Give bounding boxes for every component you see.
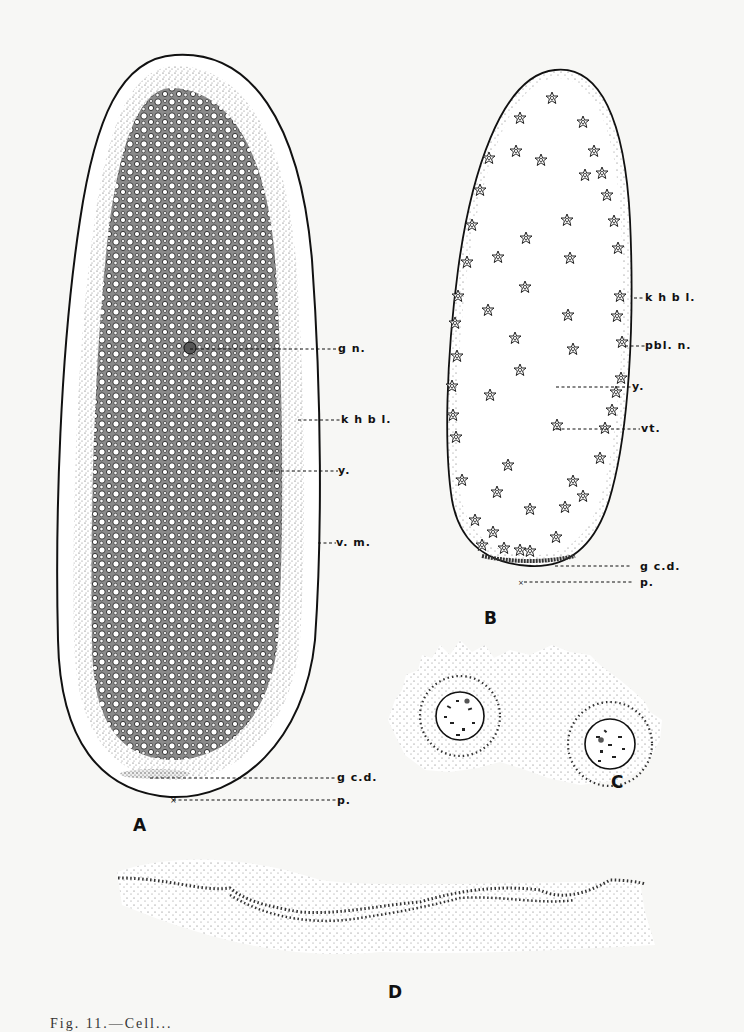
- svg-text:×: ×: [170, 796, 177, 805]
- label-b-keimhautblastem: k h b l.: [645, 292, 695, 304]
- panel-a-egg: ×: [57, 55, 340, 805]
- panel-letter-d: D: [388, 982, 402, 1002]
- panel-letter-a: A: [133, 815, 146, 835]
- panel-c-cells: [388, 640, 662, 786]
- label-a-posterior-pole: p.: [337, 795, 351, 807]
- panel-letter-b: B: [484, 608, 497, 628]
- panel-letter-c: C: [611, 772, 623, 792]
- label-a-germ-cell-determinants: g c.d.: [337, 772, 377, 784]
- figure-caption: Fig. 11.—Cell...: [50, 1016, 173, 1032]
- panel-b-egg: ×: [446, 70, 645, 587]
- label-b-preblastoderm-nuclei: pbl. n.: [645, 340, 692, 352]
- label-a-yolk: y.: [338, 465, 350, 477]
- panel-d-section: [117, 860, 655, 955]
- label-b-yolk: y.: [632, 381, 644, 393]
- label-b-vitellophage: vt.: [641, 423, 661, 435]
- label-a-vitelline-membrane: v. m.: [336, 537, 371, 549]
- label-a-keimhautblastem: k h b l.: [341, 414, 391, 426]
- label-b-germ-cell-determinants: g c.d.: [640, 561, 680, 573]
- label-b-posterior-pole: p.: [640, 577, 654, 589]
- svg-text:×: ×: [518, 579, 524, 587]
- label-a-germ-nucleus: g n.: [338, 343, 366, 355]
- figure-drawing: ×: [0, 0, 744, 1032]
- figure: ×: [0, 0, 744, 1032]
